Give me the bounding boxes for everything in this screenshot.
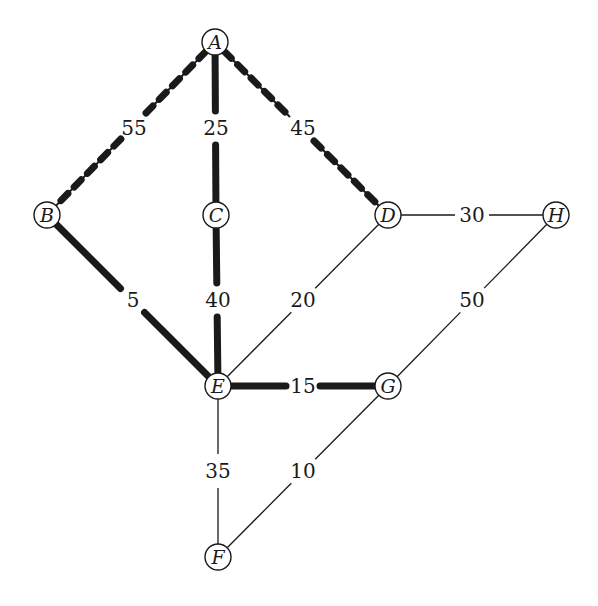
graph-svg: 552545540203050153510 ABCDHEGF (0, 0, 598, 606)
node-label-A: A (206, 31, 222, 53)
edge-labels-layer: 552545540203050153510 (121, 116, 484, 483)
edge-weight-E-F: 35 (205, 459, 230, 483)
node-label-H: H (547, 204, 565, 226)
edge-weight-A-B: 55 (121, 116, 146, 140)
edge-weight-A-C: 25 (203, 116, 228, 140)
node-label-D: D (379, 204, 395, 226)
node-H: H (543, 202, 569, 228)
edge-weight-A-D: 45 (290, 116, 315, 140)
node-E: E (205, 373, 231, 399)
node-label-B: B (39, 204, 54, 226)
edge-weight-B-E: 5 (127, 288, 140, 312)
node-B: B (34, 202, 60, 228)
node-label-E: E (210, 375, 225, 397)
edge-weight-D-H: 30 (459, 203, 484, 227)
node-label-G: G (380, 375, 395, 397)
node-label-F: F (210, 546, 225, 568)
graph-diagram: 552545540203050153510 ABCDHEGF (0, 0, 598, 606)
node-F: F (205, 544, 231, 570)
edge-weight-E-G: 15 (290, 374, 315, 398)
edge-weight-C-E: 40 (205, 288, 230, 312)
edge-weight-H-G: 50 (459, 288, 484, 312)
node-G: G (375, 373, 401, 399)
edge-weight-F-G: 10 (290, 459, 315, 483)
node-C: C (203, 202, 229, 228)
node-label-C: C (209, 204, 224, 226)
node-A: A (202, 29, 228, 55)
node-D: D (375, 202, 401, 228)
edge-weight-D-E: 20 (290, 288, 315, 312)
